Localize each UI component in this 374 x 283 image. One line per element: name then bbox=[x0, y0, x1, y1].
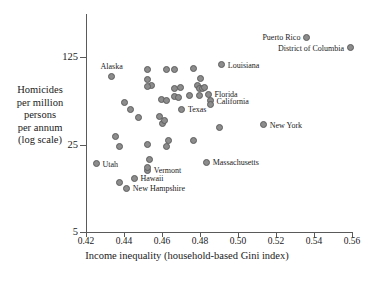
x-axis-line bbox=[86, 232, 353, 233]
data-point bbox=[121, 99, 128, 106]
data-point bbox=[190, 137, 197, 144]
data-point bbox=[146, 156, 153, 163]
data-point bbox=[144, 66, 151, 73]
data-point-district-of-columbia bbox=[347, 44, 354, 51]
data-point bbox=[163, 143, 170, 150]
data-point bbox=[116, 179, 123, 186]
data-point-hawaii bbox=[131, 175, 138, 182]
x-tick-label: 0.44 bbox=[104, 236, 144, 246]
y-tick-label: 125 bbox=[0, 52, 78, 63]
data-point-alaska bbox=[108, 73, 115, 80]
point-label: New York bbox=[270, 120, 302, 129]
data-point bbox=[112, 133, 119, 140]
y-axis-title-line: persons bbox=[0, 109, 80, 122]
data-point bbox=[163, 66, 170, 73]
point-label: Alaska bbox=[101, 62, 123, 71]
scatter-chart: Homicidesper millionpersonsper annum(log… bbox=[0, 0, 374, 283]
y-tick-mark bbox=[80, 145, 86, 146]
data-point bbox=[144, 83, 151, 90]
data-point bbox=[144, 141, 151, 148]
x-tick-label: 0.56 bbox=[332, 236, 372, 246]
data-point bbox=[196, 92, 203, 99]
y-axis-line bbox=[86, 14, 87, 232]
point-label: Texas bbox=[188, 105, 207, 114]
data-point bbox=[186, 92, 193, 99]
y-axis-title-line: per million bbox=[0, 97, 80, 110]
point-label: Utah bbox=[102, 159, 118, 168]
x-tick-label: 0.50 bbox=[218, 236, 258, 246]
data-point bbox=[161, 117, 168, 124]
y-axis-title-line: per annum bbox=[0, 122, 80, 135]
y-axis-title-line: Homicides bbox=[0, 84, 80, 97]
data-point-puerto-rico bbox=[303, 34, 310, 41]
data-point bbox=[216, 124, 223, 131]
data-point-new-york bbox=[260, 121, 267, 128]
data-point bbox=[177, 84, 184, 91]
point-label: New Hampshire bbox=[133, 184, 185, 193]
data-point bbox=[127, 106, 134, 113]
data-point bbox=[116, 143, 123, 150]
data-point bbox=[207, 101, 214, 108]
data-point-massachusetts bbox=[203, 159, 210, 166]
data-point-louisiana bbox=[218, 61, 225, 68]
data-point-new-hampshire bbox=[123, 185, 130, 192]
point-label: California bbox=[216, 96, 248, 105]
x-tick-label: 0.48 bbox=[180, 236, 220, 246]
data-point bbox=[135, 114, 142, 121]
data-point bbox=[175, 94, 182, 101]
data-point bbox=[190, 65, 197, 72]
point-label: Hawaii bbox=[140, 174, 163, 183]
x-tick-label: 0.42 bbox=[66, 236, 106, 246]
data-point bbox=[171, 66, 178, 73]
data-point-texas bbox=[178, 106, 185, 113]
data-point bbox=[197, 75, 204, 82]
data-point bbox=[163, 97, 170, 104]
x-axis-title: Income inequality (household-based Gini … bbox=[0, 250, 374, 261]
data-point-utah bbox=[93, 160, 100, 167]
x-tick-label: 0.52 bbox=[256, 236, 296, 246]
y-tick-label: 25 bbox=[0, 140, 78, 151]
x-tick-label: 0.54 bbox=[294, 236, 334, 246]
x-tick-label: 0.46 bbox=[142, 236, 182, 246]
point-label: Puerto Rico bbox=[262, 33, 300, 42]
y-tick-mark bbox=[80, 57, 86, 58]
point-label: Massachusetts bbox=[213, 158, 259, 167]
point-label: Louisiana bbox=[228, 60, 260, 69]
y-axis-title: Homicidesper millionpersonsper annum(log… bbox=[0, 84, 80, 147]
point-label: District of Columbia bbox=[278, 43, 344, 52]
